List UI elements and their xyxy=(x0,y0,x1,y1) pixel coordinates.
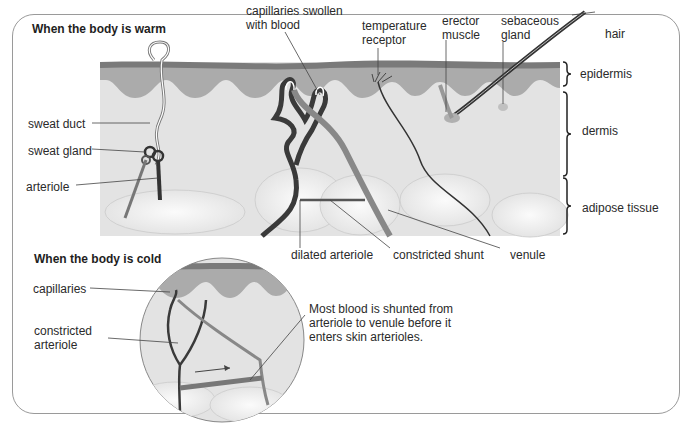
label-adipose-tissue: adipose tissue xyxy=(582,201,659,215)
warm-skin-section xyxy=(76,12,595,248)
label-sebaceous-gland: sebaceousgland xyxy=(501,14,559,42)
label-arteriole: arteriole xyxy=(26,180,69,194)
label-erector-muscle: erectormuscle xyxy=(442,14,480,42)
label-dermis: dermis xyxy=(582,124,618,138)
sebaceous-gland xyxy=(498,103,508,111)
label-capillaries-cold: capillaries xyxy=(33,282,86,296)
shunt-note: Most blood is shunted fromarteriole to v… xyxy=(309,302,453,344)
label-constricted-arteriole: constrictedarteriole xyxy=(34,324,92,352)
label-constricted-shunt: constricted shunt xyxy=(393,248,484,262)
label-temperature-receptor: temperaturereceptor xyxy=(362,19,427,47)
cold-skin-section xyxy=(90,258,320,423)
label-dilated-arteriole: dilated arteriole xyxy=(291,248,373,262)
label-epidermis: epidermis xyxy=(580,67,632,81)
label-venule: venule xyxy=(510,248,545,262)
label-sweat-duct: sweat duct xyxy=(28,117,85,131)
label-hair: hair xyxy=(605,27,625,41)
cold-title: When the body is cold xyxy=(34,252,161,266)
label-capillaries-swollen: capillaries swollenwith blood xyxy=(246,4,343,32)
sweat-arteriole xyxy=(158,160,160,200)
label-sweat-gland: sweat gland xyxy=(28,144,92,158)
warm-title: When the body is warm xyxy=(32,22,166,36)
